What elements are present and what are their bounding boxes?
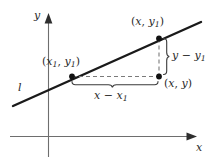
rise-label: y − y1 [172, 50, 206, 63]
point-label-left: (x1, y1) [42, 56, 80, 69]
paren-close: ) [188, 77, 192, 90]
x-axis-label: x [196, 142, 202, 153]
comma: , [142, 15, 149, 28]
run-label: x − x1 [94, 90, 128, 103]
run-brace [72, 82, 158, 88]
y-axis [45, 13, 53, 157]
point-top-right-dot [156, 36, 162, 42]
minus-operator: − [178, 49, 194, 62]
comma: , [175, 77, 182, 90]
subscript-1: 1 [123, 94, 128, 103]
paren-close: ) [160, 15, 164, 28]
x-axis [10, 133, 197, 141]
subscript-1: 1 [201, 54, 206, 63]
point-left-dot [69, 74, 75, 80]
rise-brace [164, 39, 170, 75]
line-label-l: l [18, 82, 22, 93]
minus-operator: − [100, 89, 116, 102]
paren-close: ) [76, 55, 80, 68]
point-bottom-right-dot [156, 74, 162, 80]
y-axis-label: y [34, 10, 40, 21]
slope-diagram-figure: y x l (x, y1) (x1, y1) (x, y) y − y1 x −… [0, 0, 214, 163]
comma: , [58, 55, 65, 68]
point-label-bottom-right: (x, y) [164, 78, 192, 89]
point-label-top-right: (x, y1) [131, 16, 164, 29]
